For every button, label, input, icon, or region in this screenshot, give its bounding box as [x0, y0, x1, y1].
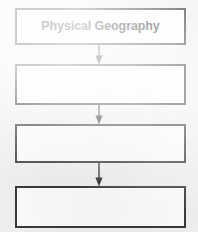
- flowchart-node-2[interactable]: [15, 64, 186, 105]
- flowchart-node-3[interactable]: [15, 124, 186, 163]
- flowchart-node-1-label: Physical Geography: [41, 20, 159, 34]
- connector-2-arrow-down-icon: [93, 104, 105, 125]
- flowchart-node-4[interactable]: [15, 186, 186, 228]
- flowchart-node-1[interactable]: Physical Geography: [15, 8, 186, 45]
- connector-1-arrow-down-icon: [93, 44, 105, 65]
- connector-3-arrow-down-icon: [93, 162, 105, 187]
- flowchart-diagram: Physical Geography: [0, 0, 198, 232]
